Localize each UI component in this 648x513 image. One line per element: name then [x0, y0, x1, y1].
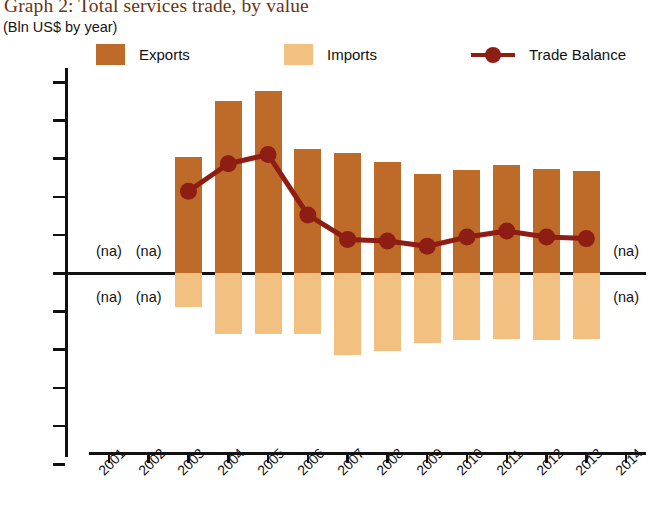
y-tick	[53, 234, 65, 237]
trade-balance-point	[339, 231, 356, 248]
trade-balance-line-layer	[65, 62, 625, 457]
y-tick	[53, 272, 65, 275]
y-tick	[53, 81, 65, 84]
legend-label-imports: Imports	[327, 46, 377, 63]
chart-subtitle: (Bln US$ by year)	[3, 19, 117, 35]
trade-balance-point	[578, 230, 595, 247]
y-tick	[53, 425, 65, 428]
chart-root: Graph 2: Total services trade, by value …	[0, 0, 648, 513]
y-tick	[53, 348, 65, 351]
y-tick	[53, 196, 65, 199]
trade-balance-point	[299, 206, 316, 223]
trade-balance-point	[538, 229, 555, 246]
trade-balance-point	[498, 222, 515, 239]
y-tick	[53, 157, 65, 160]
plot-area: (na)(na)(na)(na)(na)(na)	[65, 62, 625, 457]
trade-balance-point	[458, 229, 475, 246]
trade-balance-point	[419, 238, 436, 255]
trade-balance-point	[220, 155, 237, 172]
y-tick	[53, 387, 65, 390]
y-tick	[53, 310, 65, 313]
trade-balance-point	[180, 183, 197, 200]
chart-title: Graph 2: Total services trade, by value	[4, 0, 309, 17]
y-tick	[53, 119, 65, 122]
trade-balance-point	[379, 232, 396, 249]
legend-label-trade-balance: Trade Balance	[529, 46, 626, 63]
y-tick	[53, 463, 65, 466]
trade-balance-point	[260, 146, 277, 163]
legend-label-exports: Exports	[139, 46, 190, 63]
